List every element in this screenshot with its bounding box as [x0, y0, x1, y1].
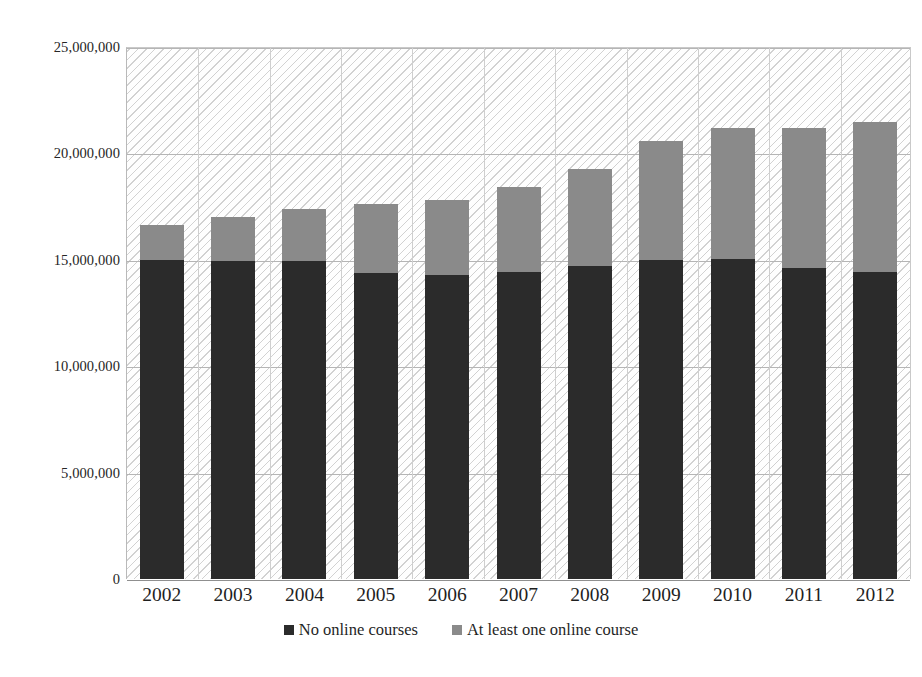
x-axis-tick-label: 2009 [642, 584, 681, 606]
legend-swatch-icon [452, 625, 462, 635]
chart-legend: No online coursesAt least one online cou… [0, 620, 922, 640]
y-axis-tick-label: 15,000,000 [2, 251, 120, 268]
bar-group[interactable] [140, 225, 184, 579]
bar-group[interactable] [211, 217, 255, 579]
x-axis-tick-label: 2012 [856, 584, 895, 606]
bar-segment-no-online-courses[interactable] [782, 268, 826, 579]
bar-segment-at-least-one-online-course[interactable] [568, 169, 612, 266]
bar-group[interactable] [639, 141, 683, 579]
x-axis-tick-label: 2011 [785, 584, 823, 606]
x-axis-tick-label: 2005 [356, 584, 395, 606]
bar-segment-at-least-one-online-course[interactable] [853, 122, 897, 272]
gridline-y [127, 580, 910, 581]
bar-segment-no-online-courses[interactable] [497, 272, 541, 579]
y-axis-tick-label: 20,000,000 [2, 145, 120, 162]
bar-segment-no-online-courses[interactable] [568, 266, 612, 579]
bar-segment-no-online-courses[interactable] [425, 275, 469, 579]
bar-segment-no-online-courses[interactable] [853, 272, 897, 579]
bar-segment-at-least-one-online-course[interactable] [782, 128, 826, 268]
x-axis-tick-label: 2004 [285, 584, 324, 606]
bar-segment-at-least-one-online-course[interactable] [711, 128, 755, 259]
bar-segment-no-online-courses[interactable] [282, 261, 326, 579]
bar-group[interactable] [853, 122, 897, 580]
bar-group[interactable] [782, 128, 826, 579]
bar-segment-no-online-courses[interactable] [354, 273, 398, 579]
bar-segment-no-online-courses[interactable] [211, 261, 255, 579]
bar-segment-at-least-one-online-course[interactable] [639, 141, 683, 260]
bar-segment-at-least-one-online-course[interactable] [497, 187, 541, 271]
x-axis-tick-label: 2007 [499, 584, 538, 606]
bar-group[interactable] [711, 128, 755, 579]
bar-group[interactable] [425, 200, 469, 579]
x-axis: 2002200320042005200620072008200920102011… [126, 584, 911, 618]
bar-segment-at-least-one-online-course[interactable] [354, 204, 398, 272]
y-axis: 05,000,00010,000,00015,000,00020,000,000… [0, 0, 120, 677]
bar-group[interactable] [497, 187, 541, 579]
y-axis-tick-label: 5,000,000 [2, 464, 120, 481]
legend-label: No online courses [299, 620, 418, 640]
x-axis-tick-label: 2008 [570, 584, 609, 606]
bar-segment-at-least-one-online-course[interactable] [425, 200, 469, 274]
y-axis-tick-label: 10,000,000 [2, 358, 120, 375]
bar-segment-no-online-courses[interactable] [639, 260, 683, 579]
bar-segment-no-online-courses[interactable] [711, 259, 755, 579]
legend-swatch-icon [284, 625, 294, 635]
bar-segment-no-online-courses[interactable] [140, 260, 184, 579]
y-axis-tick-label: 0 [2, 571, 120, 588]
x-axis-tick-label: 2010 [713, 584, 752, 606]
legend-item[interactable]: No online courses [284, 620, 418, 640]
legend-item[interactable]: At least one online course [452, 620, 638, 640]
stacked-bar-chart: 05,000,00010,000,00015,000,00020,000,000… [0, 0, 922, 677]
bar-group[interactable] [354, 204, 398, 579]
bar-group[interactable] [282, 209, 326, 579]
bar-segment-at-least-one-online-course[interactable] [140, 225, 184, 260]
x-axis-tick-label: 2003 [214, 584, 253, 606]
bar-group[interactable] [568, 169, 612, 579]
y-axis-tick-label: 25,000,000 [2, 39, 120, 56]
legend-label: At least one online course [467, 620, 638, 640]
x-axis-tick-label: 2002 [142, 584, 181, 606]
bar-segment-at-least-one-online-course[interactable] [211, 217, 255, 261]
bar-segment-at-least-one-online-course[interactable] [282, 209, 326, 261]
x-axis-tick-label: 2006 [428, 584, 467, 606]
bars-layer [126, 47, 911, 579]
